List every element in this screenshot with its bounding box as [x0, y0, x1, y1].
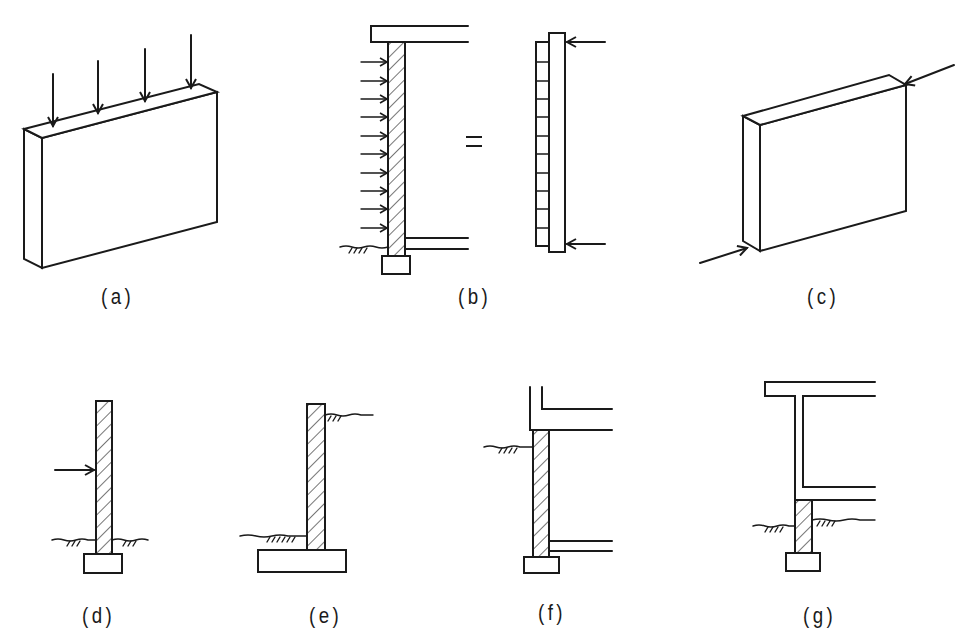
ground-line	[340, 246, 388, 248]
panel-b	[340, 26, 605, 274]
footing	[524, 557, 559, 573]
ground-hatch	[499, 448, 517, 453]
spread-footing	[258, 550, 346, 572]
footing	[786, 553, 820, 571]
caption-e: (e)	[309, 603, 342, 629]
panel-d	[52, 401, 148, 573]
ground-hatch	[349, 248, 367, 253]
panel-e	[240, 404, 373, 572]
caption-a: (a)	[101, 284, 134, 310]
ground-line-left	[52, 539, 96, 541]
panel-a	[24, 35, 217, 268]
panel-g	[753, 382, 875, 571]
panel-c	[700, 65, 954, 263]
basement-wall	[533, 430, 549, 557]
ground-line-left	[753, 525, 795, 527]
wall-block	[743, 75, 906, 251]
floor-slab	[530, 387, 612, 430]
ground-line-low	[240, 535, 307, 537]
base-slab	[405, 238, 468, 249]
ground-line-high	[325, 414, 373, 416]
caption-g: (g)	[803, 603, 836, 629]
basement-wall	[388, 42, 405, 256]
caption-f: (f)	[538, 600, 566, 626]
soil-pressure-arrows	[361, 62, 387, 228]
beam	[549, 33, 565, 252]
in-plane-force-arrow-bottom	[700, 248, 747, 263]
footing	[382, 256, 410, 274]
ground-line-right	[112, 539, 148, 541]
panel-f	[484, 387, 612, 573]
retaining-wall-stem	[307, 404, 325, 550]
floor-slab	[371, 26, 468, 42]
caption-c: (c)	[807, 284, 839, 310]
wall-loading-diagram	[0, 0, 977, 643]
short-wall	[795, 500, 812, 553]
caption-d: (d)	[82, 603, 115, 629]
caption-b: (b)	[458, 284, 491, 310]
beam-model	[536, 33, 605, 252]
base-slab	[549, 541, 612, 551]
upper-frame	[765, 382, 875, 500]
equals-sign	[466, 137, 482, 146]
uniform-load-blocks	[536, 42, 549, 246]
footing	[84, 554, 122, 573]
cantilever-wall	[96, 401, 112, 554]
ground-line	[484, 446, 533, 448]
ground-hatch	[267, 416, 341, 542]
in-plane-force-arrow-top	[905, 65, 954, 84]
ground-line-right	[812, 519, 875, 521]
